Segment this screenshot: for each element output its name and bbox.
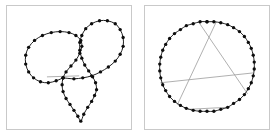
tour-node[interactable]: [64, 97, 67, 100]
tour-node[interactable]: [27, 70, 30, 73]
tour-node[interactable]: [121, 36, 124, 39]
right-panel[interactable]: (b): [144, 5, 270, 130]
tour-node[interactable]: [219, 108, 222, 111]
tour-node[interactable]: [106, 19, 109, 22]
chord-group: [199, 23, 247, 94]
tour-node[interactable]: [61, 76, 64, 79]
tour-node[interactable]: [98, 19, 101, 22]
tour-node[interactable]: [205, 110, 208, 113]
tour-node[interactable]: [33, 39, 36, 42]
tour-node[interactable]: [83, 63, 86, 66]
tour-node[interactable]: [159, 76, 162, 79]
tour-node[interactable]: [198, 110, 201, 113]
tour-node[interactable]: [159, 55, 162, 58]
tour-node[interactable]: [185, 107, 188, 110]
tour-node[interactable]: [226, 106, 229, 109]
tour-node[interactable]: [168, 95, 171, 98]
tour-node[interactable]: [226, 23, 229, 26]
tour-node[interactable]: [69, 64, 72, 67]
tour-node[interactable]: [79, 119, 82, 122]
tour-node[interactable]: [78, 49, 81, 52]
tour-node[interactable]: [168, 37, 171, 40]
tour-node[interactable]: [179, 104, 182, 107]
tour-node[interactable]: [250, 81, 253, 84]
tour-node[interactable]: [60, 83, 63, 86]
tour-node[interactable]: [78, 52, 81, 55]
tour-node[interactable]: [24, 54, 27, 57]
tour-node[interactable]: [74, 34, 77, 37]
tour-node[interactable]: [81, 76, 84, 79]
tour-node[interactable]: [232, 102, 235, 105]
tour-node[interactable]: [212, 20, 215, 23]
tour-node[interactable]: [212, 110, 215, 113]
tour-node[interactable]: [95, 88, 98, 91]
tour-node[interactable]: [247, 41, 250, 44]
tour-node[interactable]: [232, 26, 235, 29]
tour-node[interactable]: [107, 65, 110, 68]
tour-node[interactable]: [243, 93, 246, 96]
tour-node[interactable]: [238, 98, 241, 101]
tour-node[interactable]: [90, 22, 93, 25]
tour-node[interactable]: [55, 79, 58, 82]
tour-node[interactable]: [76, 115, 79, 118]
tour-node[interactable]: [114, 59, 117, 62]
tour-node[interactable]: [90, 74, 93, 77]
tour-node[interactable]: [118, 53, 121, 56]
tour-node[interactable]: [24, 62, 27, 65]
tour-node[interactable]: [173, 100, 176, 103]
tour-node[interactable]: [161, 49, 164, 52]
tour-node[interactable]: [82, 113, 85, 116]
tour-node[interactable]: [253, 60, 256, 63]
tour-node[interactable]: [64, 70, 67, 73]
tour-node[interactable]: [41, 34, 44, 37]
tour-node[interactable]: [219, 21, 222, 24]
tour-node[interactable]: [192, 109, 195, 112]
tour-node[interactable]: [205, 20, 208, 23]
left-panel[interactable]: (a): [6, 5, 132, 130]
tour-node[interactable]: [161, 83, 164, 86]
tour-node[interactable]: [94, 81, 97, 84]
tour-node[interactable]: [72, 77, 75, 80]
tour-node[interactable]: [114, 22, 117, 25]
tour-node[interactable]: [50, 31, 53, 34]
tour-node[interactable]: [74, 58, 77, 61]
tour-node[interactable]: [118, 28, 121, 31]
tour-node[interactable]: [243, 35, 246, 38]
tour-node[interactable]: [80, 45, 83, 48]
tour-node[interactable]: [68, 103, 71, 106]
tour-node[interactable]: [252, 74, 255, 77]
tour-node[interactable]: [238, 30, 241, 33]
tour-node[interactable]: [61, 90, 64, 93]
tour-node[interactable]: [252, 54, 255, 57]
tour-node[interactable]: [164, 89, 167, 92]
tour-node[interactable]: [39, 80, 42, 83]
tour-node[interactable]: [164, 43, 167, 46]
tour-node[interactable]: [121, 45, 124, 48]
tour-node[interactable]: [72, 109, 75, 112]
tour-node[interactable]: [173, 32, 176, 35]
tour-node[interactable]: [192, 22, 195, 25]
tour-node[interactable]: [90, 100, 93, 103]
tour-node[interactable]: [80, 56, 83, 59]
tour-node[interactable]: [67, 31, 70, 34]
tour-node[interactable]: [253, 67, 256, 70]
tour-node[interactable]: [58, 30, 61, 33]
tour-node[interactable]: [198, 20, 201, 23]
tour-node[interactable]: [84, 27, 87, 30]
tour-node[interactable]: [158, 69, 161, 72]
tour-node[interactable]: [247, 87, 250, 90]
tour-node[interactable]: [32, 76, 35, 79]
tour-node[interactable]: [86, 106, 89, 109]
tour-node[interactable]: [158, 62, 161, 65]
tour-node[interactable]: [185, 24, 188, 27]
tour-node[interactable]: [93, 94, 96, 97]
tour-node[interactable]: [99, 70, 102, 73]
chord-line: [177, 23, 215, 105]
tour-node[interactable]: [87, 69, 90, 72]
tour-node[interactable]: [80, 34, 83, 37]
tour-node[interactable]: [27, 46, 30, 49]
tour-node[interactable]: [250, 47, 253, 50]
tour-node[interactable]: [179, 28, 182, 31]
tour-node[interactable]: [78, 41, 81, 44]
tour-node[interactable]: [47, 81, 50, 84]
